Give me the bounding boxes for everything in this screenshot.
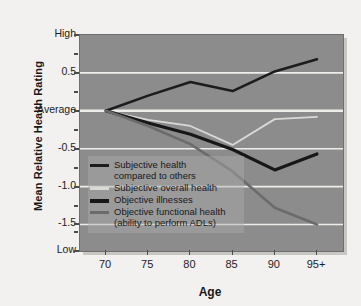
legend-swatch-subjective-compared xyxy=(90,164,109,167)
y-tick-label: -1.5 xyxy=(2,216,76,228)
y-tick-label: 0.5 xyxy=(2,65,76,77)
series-line-0 xyxy=(106,59,317,111)
legend-item-label: Subjective overall health xyxy=(114,182,217,193)
y-tick-mark-minor xyxy=(74,231,78,233)
y-tick-mark xyxy=(74,186,79,188)
legend-item-label: Objective functional health (ability to … xyxy=(114,206,225,228)
y-tick-mark xyxy=(74,34,79,36)
y-tick-label: Average xyxy=(2,103,76,115)
y-tick-mark-minor xyxy=(74,53,78,55)
legend-item-label: Subjective health compared to others xyxy=(114,159,196,181)
legend-swatch-subjective-overall xyxy=(90,187,109,190)
legend-item: Subjective overall health xyxy=(90,182,242,193)
x-tick-label: 80 xyxy=(169,258,209,270)
y-tick-mark xyxy=(74,72,79,74)
x-tick-mark xyxy=(232,250,233,255)
y-tick-label: Low xyxy=(2,243,76,255)
y-tick-mark-minor xyxy=(74,167,78,169)
x-axis-title: Age xyxy=(78,285,342,299)
legend-item: Subjective health compared to others xyxy=(90,159,242,181)
x-tick-label: 95+ xyxy=(296,258,336,270)
y-axis-tick-labels: High0.5Average-0.5-1.0-1.5Low xyxy=(0,0,76,306)
y-tick-mark xyxy=(74,223,79,225)
x-tick-mark xyxy=(147,250,148,255)
y-tick-label: -1.0 xyxy=(2,179,76,191)
y-tick-label: -0.5 xyxy=(2,141,76,153)
chart-figure: Mean Relative Health Rating High0.5Avera… xyxy=(0,0,361,306)
y-tick-mark xyxy=(74,250,79,252)
y-tick-mark xyxy=(74,110,79,112)
legend-item: Objective illnesses xyxy=(90,194,242,205)
legend-item-label: Objective illnesses xyxy=(114,194,193,205)
legend-swatch-objective-functional xyxy=(90,211,109,214)
x-tick-label: 75 xyxy=(127,258,167,270)
x-tick-mark xyxy=(274,250,275,255)
x-tick-mark xyxy=(316,250,317,255)
x-tick-mark xyxy=(189,250,190,255)
chart-legend: Subjective health compared to othersSubj… xyxy=(88,156,244,233)
x-tick-label: 90 xyxy=(254,258,294,270)
series-line-1 xyxy=(106,111,317,145)
legend-swatch-objective-illnesses xyxy=(90,199,109,203)
y-tick-mark xyxy=(74,148,79,150)
legend-item: Objective functional health (ability to … xyxy=(90,206,242,228)
x-tick-label: 85 xyxy=(212,258,252,270)
x-tick-mark xyxy=(105,250,106,255)
y-tick-mark-minor xyxy=(74,129,78,131)
y-tick-label: High xyxy=(2,27,76,39)
y-tick-mark-minor xyxy=(74,91,78,93)
y-tick-mark-minor xyxy=(74,205,78,207)
x-tick-label: 70 xyxy=(85,258,125,270)
